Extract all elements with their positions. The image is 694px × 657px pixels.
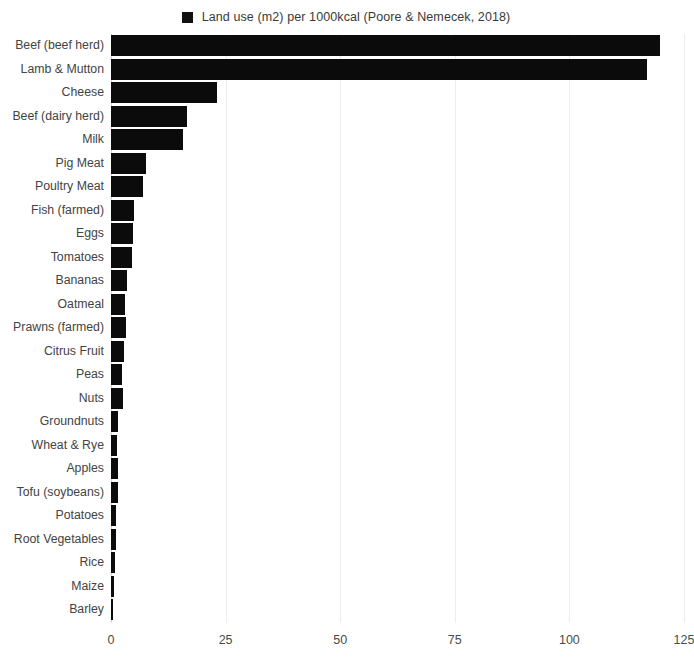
- chart-row: Fish (farmed): [0, 199, 692, 223]
- bar[interactable]: [111, 529, 116, 550]
- bar[interactable]: [111, 458, 118, 479]
- x-axis: 0255075100125: [0, 623, 692, 657]
- category-label: Apples: [0, 457, 104, 481]
- bar[interactable]: [111, 294, 125, 315]
- x-tick-label: 100: [559, 633, 580, 647]
- category-label: Tomatoes: [0, 246, 104, 270]
- chart-row: Tomatoes: [0, 246, 692, 270]
- category-label: Poultry Meat: [0, 175, 104, 199]
- chart-row: Potatoes: [0, 504, 692, 528]
- bar-track: [111, 529, 116, 550]
- category-label: Groundnuts: [0, 410, 104, 434]
- category-label: Root Vegetables: [0, 528, 104, 552]
- chart-row: Tofu (soybeans): [0, 481, 692, 505]
- bar-track: [111, 294, 125, 315]
- bar-track: [111, 153, 146, 174]
- bar-track: [111, 317, 126, 338]
- bar-track: [111, 176, 143, 197]
- bar[interactable]: [111, 59, 647, 80]
- category-label: Wheat & Rye: [0, 434, 104, 458]
- category-label: Nuts: [0, 387, 104, 411]
- bar[interactable]: [111, 364, 122, 385]
- bar-track: [111, 505, 116, 526]
- bar-track: [111, 223, 133, 244]
- bar-track: [111, 341, 124, 362]
- bar-track: [111, 129, 183, 150]
- x-tick-label: 0: [108, 633, 115, 647]
- bar[interactable]: [111, 341, 124, 362]
- bar[interactable]: [111, 153, 146, 174]
- category-label: Bananas: [0, 269, 104, 293]
- bar-track: [111, 364, 122, 385]
- chart-row: Prawns (farmed): [0, 316, 692, 340]
- bar-track: [111, 576, 114, 597]
- bar-track: [111, 411, 118, 432]
- bar[interactable]: [111, 176, 143, 197]
- bar[interactable]: [111, 200, 134, 221]
- category-label: Maize: [0, 575, 104, 599]
- chart-row: Beef (dairy herd): [0, 105, 692, 129]
- bar-track: [111, 435, 117, 456]
- chart-row: Nuts: [0, 387, 692, 411]
- category-label: Potatoes: [0, 504, 104, 528]
- bar-track: [111, 552, 115, 573]
- bar-track: [111, 35, 660, 56]
- bar[interactable]: [111, 82, 217, 103]
- bar-track: [111, 599, 113, 620]
- category-label: Barley: [0, 598, 104, 622]
- bar-track: [111, 388, 123, 409]
- chart-legend: Land use (m2) per 1000kcal (Poore & Neme…: [0, 0, 692, 34]
- chart-bar-rows: Beef (beef herd)Lamb & MuttonCheeseBeef …: [0, 34, 692, 622]
- category-label: Cheese: [0, 81, 104, 105]
- bar-track: [111, 270, 127, 291]
- x-tick-label: 125: [674, 633, 694, 647]
- bar[interactable]: [111, 129, 183, 150]
- chart-row: Wheat & Rye: [0, 434, 692, 458]
- x-tick-label: 50: [333, 633, 347, 647]
- category-label: Citrus Fruit: [0, 340, 104, 364]
- chart-row: Oatmeal: [0, 293, 692, 317]
- chart-row: Apples: [0, 457, 692, 481]
- chart-row: Root Vegetables: [0, 528, 692, 552]
- chart-plot-area: Beef (beef herd)Lamb & MuttonCheeseBeef …: [0, 34, 692, 657]
- category-label: Pig Meat: [0, 152, 104, 176]
- bar[interactable]: [111, 223, 133, 244]
- bar[interactable]: [111, 552, 115, 573]
- chart-row: Maize: [0, 575, 692, 599]
- bar[interactable]: [111, 505, 116, 526]
- bar[interactable]: [111, 270, 127, 291]
- category-label: Eggs: [0, 222, 104, 246]
- category-label: Rice: [0, 551, 104, 575]
- bar-track: [111, 200, 134, 221]
- bar[interactable]: [111, 35, 660, 56]
- bar[interactable]: [111, 411, 118, 432]
- chart-row: Eggs: [0, 222, 692, 246]
- category-label: Beef (beef herd): [0, 34, 104, 58]
- chart-row: Peas: [0, 363, 692, 387]
- bar[interactable]: [111, 576, 114, 597]
- category-label: Fish (farmed): [0, 199, 104, 223]
- bar[interactable]: [111, 435, 117, 456]
- category-label: Beef (dairy herd): [0, 105, 104, 129]
- bar-track: [111, 458, 118, 479]
- bar[interactable]: [111, 317, 126, 338]
- legend-color-swatch-icon: [182, 12, 193, 23]
- category-label: Milk: [0, 128, 104, 152]
- x-tick-label: 25: [219, 633, 233, 647]
- bar[interactable]: [111, 599, 113, 620]
- bar[interactable]: [111, 482, 118, 503]
- chart-row: Beef (beef herd): [0, 34, 692, 58]
- category-label: Prawns (farmed): [0, 316, 104, 340]
- bar-track: [111, 247, 132, 268]
- bar[interactable]: [111, 247, 132, 268]
- bar[interactable]: [111, 388, 123, 409]
- chart-row: Poultry Meat: [0, 175, 692, 199]
- bar-track: [111, 82, 217, 103]
- bar-track: [111, 106, 187, 127]
- chart-row: Rice: [0, 551, 692, 575]
- chart-row: Lamb & Mutton: [0, 58, 692, 82]
- category-label: Tofu (soybeans): [0, 481, 104, 505]
- bar[interactable]: [111, 106, 187, 127]
- bar-track: [111, 59, 647, 80]
- legend-label: Land use (m2) per 1000kcal (Poore & Neme…: [202, 10, 511, 24]
